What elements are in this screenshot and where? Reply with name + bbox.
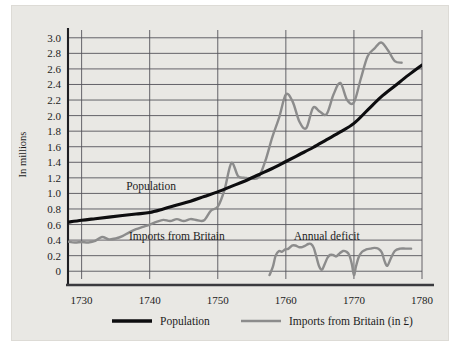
annual-deficit-line [270,244,412,275]
y-tick-label: 2.6 [47,63,61,75]
y-tick-label: 2.0 [47,110,61,122]
chart-annotation: Population [126,180,176,193]
chart-annotation: Annual deficit [294,230,361,242]
imports-line [68,42,402,242]
x-tick-label: 1760 [275,294,298,306]
y-tick-label: 2.2 [47,94,61,106]
legend-label: Imports from Britain (in £) [289,315,413,328]
legend-label: Population [160,315,210,328]
axis-layer [66,28,434,285]
tick-label-layer: 00.20.40.60.81.01.21.41.61.82.02.22.42.6… [17,32,434,306]
grid-layer [68,30,422,279]
y-tick-label: 1.2 [47,172,61,184]
y-tick-label: 0.4 [47,234,61,246]
y-axis-label: In millions [17,132,28,178]
y-tick-label: 3.0 [47,32,61,44]
annotation-layer: PopulationImports from BritainAnnual def… [126,180,360,243]
y-tick-label: 2.8 [47,47,61,59]
x-tick-label: 1780 [411,294,434,306]
population-line [68,65,422,222]
chart-annotation: Imports from Britain [129,230,225,243]
y-tick-label: 1.6 [47,141,61,153]
y-tick-label: 1.4 [47,156,61,168]
y-tick-label: 0.6 [47,219,61,231]
y-tick-label: 2.4 [47,78,61,90]
figure-page: 00.20.40.60.81.01.21.41.61.82.02.22.42.6… [0,0,458,348]
x-tick-label: 1750 [207,294,230,306]
x-tick-label: 1730 [71,294,94,306]
x-tick-label: 1770 [343,294,366,306]
chart-card: 00.20.40.60.81.01.21.41.61.82.02.22.42.6… [12,6,448,340]
y-tick-label: 0 [56,265,62,277]
y-tick-label: 1.8 [47,125,61,137]
line-chart: 00.20.40.60.81.01.21.41.61.82.02.22.42.6… [12,6,448,340]
y-tick-label: 1.0 [47,187,61,199]
legend-layer: PopulationImports from Britain (in £) [112,315,413,328]
y-tick-label: 0.8 [47,203,61,215]
y-tick-label: 0.2 [47,250,61,262]
x-tick-label: 1740 [139,294,162,306]
